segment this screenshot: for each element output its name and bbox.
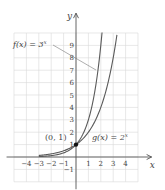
x-tick-label: −4 <box>21 160 32 168</box>
y-tick-label: 7 <box>70 67 74 75</box>
x-tick-label: 3 <box>111 160 115 168</box>
y-tick-label: 5 <box>70 92 74 100</box>
x-tick-label: −3 <box>34 160 44 168</box>
x-tick-label: −2 <box>46 160 56 168</box>
y-tick-label: 3 <box>70 116 74 124</box>
x-tick-label: 4 <box>123 160 128 168</box>
y-tick-label: 4 <box>70 104 75 112</box>
y-tick-label: −1 <box>64 166 74 174</box>
label-point: (0, 1) <box>45 133 67 142</box>
x-tick-label: 2 <box>99 160 103 168</box>
x-tick-label: 1 <box>86 160 90 168</box>
y-tick-label: 6 <box>70 79 75 87</box>
x-axis-label: x <box>150 160 155 170</box>
y-tick-label: 8 <box>70 54 74 62</box>
exponential-graph: xy −4−3−2−11234−1123456789 f(x) = 3xg(x)… <box>0 0 165 190</box>
y-tick-label: 2 <box>70 129 74 137</box>
point-0-1 <box>74 142 78 146</box>
y-tick-label: 9 <box>70 42 74 50</box>
y-axis-label: y <box>66 11 73 21</box>
label-g: g(x) = 2x <box>92 132 129 142</box>
label-f: f(x) = 3x <box>12 39 48 49</box>
